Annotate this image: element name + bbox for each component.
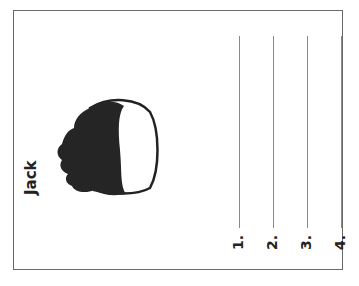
answer-number-2: 2. bbox=[264, 235, 280, 250]
head-silhouette-icon bbox=[50, 90, 160, 200]
answer-line-2[interactable] bbox=[273, 36, 274, 228]
answer-number-3: 3. bbox=[298, 235, 314, 250]
worksheet-title: Jack bbox=[22, 135, 40, 195]
answer-line-3[interactable] bbox=[307, 36, 308, 228]
answer-number-1: 1. bbox=[230, 235, 246, 250]
answer-line-1[interactable] bbox=[239, 36, 240, 228]
answer-line-4[interactable] bbox=[341, 36, 342, 228]
answer-number-4: 4. bbox=[332, 235, 348, 250]
